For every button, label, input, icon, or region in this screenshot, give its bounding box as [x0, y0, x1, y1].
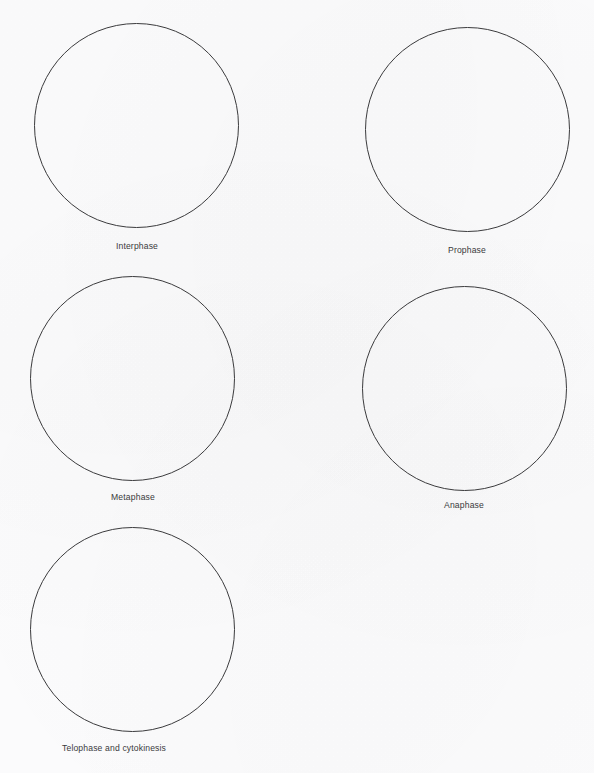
figure-metaphase: [30, 276, 235, 481]
figure-label-metaphase: Metaphase: [111, 492, 155, 503]
figure-label-telophase-and-cytokinesis: Telophase and cytokinesis: [62, 743, 166, 754]
figure-telophase-and-cytokinesis: [30, 527, 235, 732]
cell-outline-circle-anaphase[interactable]: [362, 286, 567, 491]
figure-label-prophase: Prophase: [448, 245, 486, 256]
figure-label-interphase: Interphase: [116, 241, 158, 252]
figure-label-anaphase: Anaphase: [444, 500, 484, 511]
cell-outline-circle-interphase[interactable]: [34, 23, 239, 228]
figure-interphase: [34, 23, 239, 228]
cell-outline-circle-metaphase[interactable]: [30, 276, 235, 481]
figure-prophase: [365, 27, 570, 232]
cell-outline-circle-prophase[interactable]: [365, 27, 570, 232]
figure-anaphase: [362, 286, 567, 491]
cell-outline-circle-telophase-and-cytokinesis[interactable]: [30, 527, 235, 732]
worksheet-page: Interphase Prophase Metaphase Anaphase T…: [0, 0, 594, 773]
